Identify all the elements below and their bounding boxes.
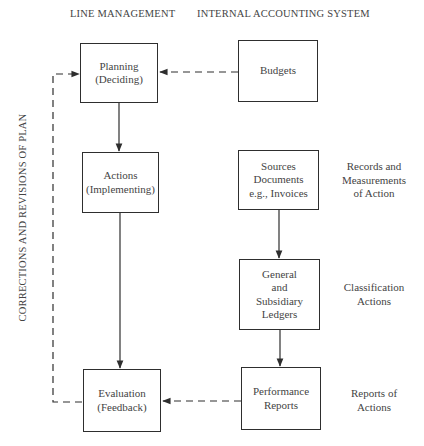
feedback-loop-evaluation-to-planning — [53, 74, 82, 402]
note-records-line-1: Records and — [329, 160, 419, 174]
connectors — [0, 0, 424, 446]
note-reports-line-1: Reports of — [329, 387, 419, 401]
box-source-documents-line-1: Sources — [249, 160, 308, 174]
note-records-line-3: of Action — [329, 187, 419, 201]
box-evaluation-line-1: Evaluation — [97, 387, 146, 401]
box-ledgers: General and Subsidiary Ledgers — [239, 259, 320, 330]
box-planning-line-2: (Deciding) — [95, 73, 143, 87]
box-actions: Actions (Implementing) — [82, 152, 159, 213]
box-ledgers-line-4: Ledgers — [256, 308, 303, 322]
box-performance-reports-line-2: Reports — [253, 399, 309, 413]
note-reports-of-actions: Reports of Actions — [329, 387, 419, 414]
box-actions-line-1: Actions — [86, 169, 155, 183]
note-classification-line-2: Actions — [329, 295, 419, 309]
note-records-measurements: Records and Measurements of Action — [329, 160, 419, 201]
box-ledgers-line-3: Subsidiary — [256, 295, 303, 309]
box-source-documents-line-3: e.g., Invoices — [249, 187, 308, 201]
box-planning-line-1: Planning — [95, 60, 143, 74]
note-classification-actions: Classification Actions — [329, 281, 419, 308]
box-budgets: Budgets — [238, 40, 318, 102]
box-ledgers-line-1: General — [256, 268, 303, 282]
box-performance-reports-line-1: Performance — [253, 385, 309, 399]
note-reports-line-2: Actions — [329, 401, 419, 415]
box-evaluation-line-2: (Feedback) — [97, 401, 146, 415]
note-records-line-2: Measurements — [329, 174, 419, 188]
box-evaluation: Evaluation (Feedback) — [83, 369, 161, 432]
box-source-documents: Sources Documents e.g., Invoices — [238, 150, 319, 210]
box-ledgers-line-2: and — [256, 281, 303, 295]
note-classification-line-1: Classification — [329, 281, 419, 295]
box-source-documents-line-2: Documents — [249, 173, 308, 187]
box-performance-reports: Performance Reports — [241, 367, 321, 430]
box-budgets-line-1: Budgets — [260, 64, 296, 78]
box-planning: Planning (Deciding) — [80, 43, 158, 103]
box-actions-line-2: (Implementing) — [86, 183, 155, 197]
